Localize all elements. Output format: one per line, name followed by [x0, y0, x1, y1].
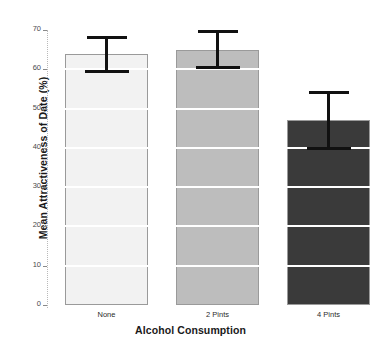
error-bar-cap-lower: [85, 70, 129, 73]
y-axis-tick-label: 20: [33, 220, 41, 229]
y-axis-tick-mark: [43, 109, 47, 110]
plot-area: [48, 30, 381, 305]
error-bar-cap-upper: [87, 36, 127, 39]
error-bar-cap-lower: [307, 147, 351, 150]
y-axis-tick-label: 0: [37, 299, 41, 308]
error-bar-cap-upper: [198, 30, 238, 33]
y-axis-tick-label: 30: [33, 181, 41, 190]
y-axis-tick: 60: [20, 69, 47, 70]
bar: [65, 54, 148, 305]
y-axis-tick-label: 10: [33, 260, 41, 269]
bar-chart: Mean Attractiveness of Date (%) 01020304…: [0, 0, 381, 344]
error-bar: [82, 36, 132, 73]
y-axis-tick-label: 50: [33, 103, 41, 112]
error-bar-cap-upper: [309, 91, 349, 94]
y-axis-tick-mark: [43, 266, 47, 267]
x-axis-category-label: None: [67, 310, 147, 319]
x-axis-title: Alcohol Consumption: [0, 324, 381, 336]
y-axis-tick-label: 40: [33, 142, 41, 151]
bar-fill: [177, 51, 258, 304]
x-axis-category-label: 4 Pints: [289, 310, 369, 319]
bar: [176, 50, 259, 305]
y-axis-tick-label: 60: [33, 63, 41, 72]
y-axis-tick: 30: [20, 187, 47, 188]
error-bar-cap-lower: [196, 66, 240, 69]
error-bar-stem: [105, 36, 108, 73]
error-bar: [304, 91, 354, 150]
y-axis-tick-mark: [43, 226, 47, 227]
y-axis-tick: 0: [20, 305, 47, 306]
bar-fill: [66, 55, 147, 304]
x-axis-category-label: 2 Pints: [178, 310, 258, 319]
y-axis-tick: 10: [20, 266, 47, 267]
error-bar-stem: [216, 30, 219, 69]
y-axis-tick-mark: [43, 187, 47, 188]
y-axis-tick: 50: [20, 109, 47, 110]
error-bar: [193, 30, 243, 69]
y-axis-tick-mark: [43, 30, 47, 31]
y-axis-tick-mark: [43, 69, 47, 70]
error-bar-stem: [327, 91, 330, 150]
y-axis-tick-mark: [43, 305, 47, 306]
y-axis-tick-label: 70: [33, 24, 41, 33]
y-axis-tick: 40: [20, 148, 47, 149]
y-axis-tick: 20: [20, 226, 47, 227]
y-axis-tick: 70: [20, 30, 47, 31]
y-axis-tick-mark: [43, 148, 47, 149]
